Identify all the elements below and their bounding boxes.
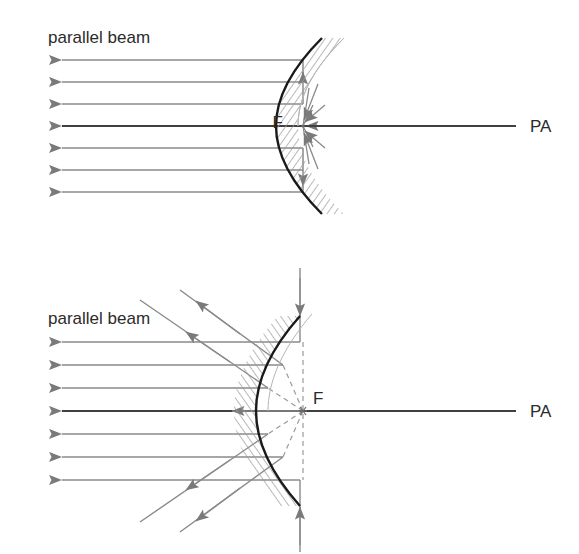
axis-label-concave: PA — [530, 117, 552, 136]
concave-mirror-diagram: parallel beam F PA — [48, 28, 552, 228]
focus-label-concave: F — [273, 113, 283, 132]
reflected-ray-arrow — [196, 488, 240, 521]
mirror-ray-diagrams: parallel beam F PA — [0, 0, 579, 554]
reflected-ray-arrow — [305, 131, 325, 148]
reflected-ray-arrow — [186, 460, 230, 490]
beam-label-convex: parallel beam — [48, 309, 150, 328]
convex-mirror-diagram: parallel beam F PA — [48, 268, 552, 552]
reflected-ray-arrow — [196, 301, 240, 334]
reflected-ray-arrow — [186, 332, 230, 362]
reflected-ray-arrow — [305, 105, 325, 122]
beam-label-concave: parallel beam — [48, 28, 150, 47]
focus-label-convex: F — [313, 389, 323, 408]
axis-label-convex: PA — [530, 402, 552, 421]
optics-figure: parallel beam F PA — [0, 0, 579, 554]
focus-point-concave — [301, 124, 304, 127]
